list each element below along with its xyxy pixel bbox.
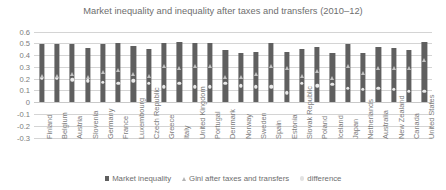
x-axis-tick-label: Norway bbox=[244, 114, 253, 139]
legend-item-gini-after-taxes[interactable]: Gini after taxes and transfers bbox=[182, 174, 289, 183]
marker-gini-after-taxes[interactable] bbox=[254, 72, 258, 76]
x-axis: FinlandBelgiumAustriaSloveniaGermanyFran… bbox=[34, 139, 432, 179]
x-axis-tick-label: Denmark bbox=[228, 109, 237, 139]
x-axis-tick-label: Austria bbox=[75, 116, 84, 139]
marker-gini-after-taxes[interactable] bbox=[223, 75, 227, 79]
y-axis-tick-label: -0.3 bbox=[0, 133, 30, 142]
x-axis-tick-label: New Zealand bbox=[397, 95, 406, 139]
y-axis-tick-label: 0.3 bbox=[0, 62, 30, 71]
marker-gini-after-taxes[interactable] bbox=[330, 76, 334, 80]
y-axis-tick-label: 0.5 bbox=[0, 39, 30, 48]
marker-gini-after-taxes[interactable] bbox=[40, 74, 44, 78]
marker-gini-after-taxes[interactable] bbox=[285, 66, 289, 70]
bar-market-inequality[interactable] bbox=[284, 52, 289, 103]
triangle-marker-icon bbox=[182, 177, 186, 181]
bar-market-inequality[interactable] bbox=[345, 44, 350, 102]
marker-gini-after-taxes[interactable] bbox=[239, 75, 243, 79]
marker-gini-after-taxes[interactable] bbox=[147, 74, 151, 78]
marker-gini-after-taxes[interactable] bbox=[177, 66, 181, 70]
marker-gini-after-taxes[interactable] bbox=[392, 66, 396, 70]
x-axis-tick-label: Canada bbox=[412, 113, 421, 139]
marker-gini-after-taxes[interactable] bbox=[376, 66, 380, 70]
y-axis-tick-label: 0.1 bbox=[0, 86, 30, 95]
bar-market-inequality[interactable] bbox=[192, 43, 197, 102]
legend-label: Market inequality bbox=[112, 174, 171, 183]
marker-gini-after-taxes[interactable] bbox=[86, 75, 90, 79]
marker-gini-after-taxes[interactable] bbox=[101, 70, 105, 74]
bar-market-inequality[interactable] bbox=[406, 50, 411, 102]
x-axis-tick-label: United States bbox=[427, 95, 436, 139]
marker-gini-after-taxes[interactable] bbox=[208, 64, 212, 68]
x-axis-tick-label: Poland bbox=[320, 116, 329, 139]
x-axis-tick-label: Germany bbox=[106, 109, 115, 139]
marker-gini-after-taxes[interactable] bbox=[422, 58, 426, 62]
marker-gini-after-taxes[interactable] bbox=[162, 64, 166, 68]
marker-gini-after-taxes[interactable] bbox=[116, 68, 120, 72]
x-axis-tick-label: Slovenia bbox=[91, 111, 100, 139]
chart-container: Market inequality and inequality after t… bbox=[0, 0, 446, 190]
circle-marker-icon bbox=[300, 176, 304, 180]
marker-gini-after-taxes[interactable] bbox=[55, 74, 59, 78]
x-axis-tick-label: Czech Republic bbox=[152, 87, 161, 139]
x-axis-tick-label: Slovak Republic bbox=[305, 86, 314, 139]
x-axis-tick-label: France bbox=[121, 116, 130, 139]
marker-gini-after-taxes[interactable] bbox=[361, 71, 365, 75]
bar-market-inequality[interactable] bbox=[177, 42, 182, 102]
y-axis-tick-label: 0.4 bbox=[0, 51, 30, 60]
x-axis-tick-label: Australia bbox=[381, 110, 390, 139]
x-axis-tick-label: Japan bbox=[351, 119, 360, 139]
marker-gini-after-taxes[interactable] bbox=[193, 64, 197, 68]
x-axis-tick-label: Estonia bbox=[290, 114, 299, 139]
marker-gini-after-taxes[interactable] bbox=[70, 72, 74, 76]
bar-market-inequality[interactable] bbox=[253, 52, 258, 103]
x-axis-tick-label: Italy bbox=[182, 125, 191, 139]
legend-item-market-inequality[interactable]: Market inequality bbox=[105, 174, 172, 183]
marker-gini-after-taxes[interactable] bbox=[346, 64, 350, 68]
y-axis-tick-label: -0.2 bbox=[0, 121, 30, 130]
chart-legend: Market inequality Gini after taxes and t… bbox=[0, 174, 446, 183]
marker-gini-after-taxes[interactable] bbox=[407, 66, 411, 70]
bar-market-inequality[interactable] bbox=[422, 42, 427, 102]
bar-market-inequality[interactable] bbox=[361, 53, 366, 102]
y-axis-tick-label: 0.6 bbox=[0, 27, 30, 36]
y-axis-tick-label: -0.1 bbox=[0, 109, 30, 118]
bar-market-inequality[interactable] bbox=[162, 43, 167, 102]
legend-label: difference bbox=[307, 174, 341, 183]
bar-market-inequality[interactable] bbox=[269, 43, 274, 102]
chart-title: Market inequality and inequality after t… bbox=[0, 6, 446, 16]
x-axis-tick-label: Sweden bbox=[259, 112, 268, 139]
square-marker-icon bbox=[105, 176, 110, 181]
y-axis-tick-label: 0.2 bbox=[0, 74, 30, 83]
x-axis-tick-label: Iceland bbox=[336, 115, 345, 139]
x-axis-tick-label: United Kingdom bbox=[198, 86, 207, 139]
marker-gini-after-taxes[interactable] bbox=[315, 69, 319, 73]
bar-market-inequality[interactable] bbox=[116, 43, 121, 102]
y-axis: 0.60.50.40.30.20.10-0.1-0.2-0.3 bbox=[0, 32, 34, 138]
bar-market-inequality[interactable] bbox=[207, 43, 212, 102]
x-axis-tick-label: Greece bbox=[167, 115, 176, 139]
legend-label: Gini after taxes and transfers bbox=[189, 174, 289, 183]
x-axis-tick-label: Portugal bbox=[213, 111, 222, 139]
bar-market-inequality[interactable] bbox=[391, 48, 396, 102]
x-axis-tick-label: Belgium bbox=[60, 112, 69, 139]
x-axis-tick-label: Spain bbox=[274, 120, 283, 139]
marker-gini-after-taxes[interactable] bbox=[300, 74, 304, 78]
bar-market-inequality[interactable] bbox=[376, 47, 381, 102]
x-axis-tick-label: Luxembourg bbox=[137, 98, 146, 139]
x-axis-tick-label: Netherlands bbox=[366, 99, 375, 139]
x-axis-tick-label: Finland bbox=[45, 115, 54, 139]
marker-gini-after-taxes[interactable] bbox=[131, 72, 135, 76]
marker-gini-after-taxes[interactable] bbox=[269, 64, 273, 68]
y-axis-tick-label: 0 bbox=[0, 98, 30, 107]
bar-market-inequality[interactable] bbox=[315, 47, 320, 102]
legend-item-difference[interactable]: difference bbox=[300, 174, 341, 183]
